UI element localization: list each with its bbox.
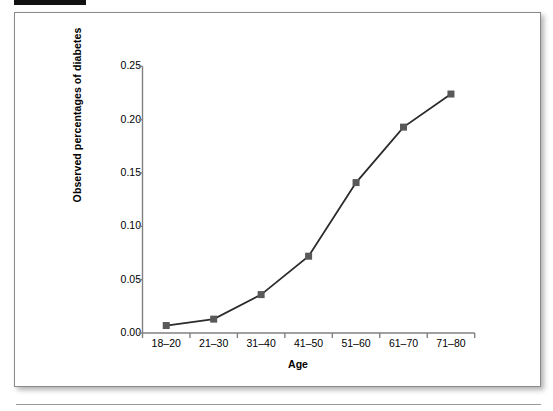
- series-markers: [163, 91, 455, 329]
- chart-plot-area: Observed percentages of diabetes 0.000.0…: [15, 13, 542, 386]
- data-point-marker: [400, 124, 407, 131]
- figure-frame: Observed percentages of diabetes 0.000.0…: [14, 12, 541, 387]
- x-axis-ticks: [143, 333, 475, 338]
- data-point-marker: [305, 253, 312, 260]
- data-point-marker: [210, 316, 217, 323]
- line-chart-svg: [15, 13, 542, 386]
- data-point-marker: [353, 179, 360, 186]
- data-point-marker: [163, 322, 170, 329]
- data-point-marker: [447, 91, 454, 98]
- footer-rule: [16, 404, 541, 405]
- series-line: [166, 94, 451, 325]
- chart-axes: [143, 66, 475, 333]
- data-point-marker: [258, 291, 265, 298]
